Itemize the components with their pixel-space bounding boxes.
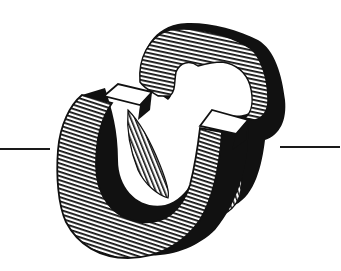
magnets-illustration <box>0 0 341 271</box>
front-magnet-inner-face <box>128 110 169 198</box>
front-magnet <box>57 84 248 258</box>
